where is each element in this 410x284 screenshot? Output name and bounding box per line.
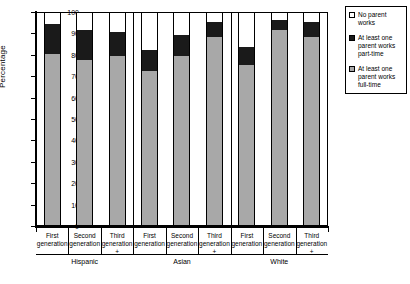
legend-swatch-full-time — [349, 66, 355, 72]
x-axis-category-label: Firstgeneration — [231, 232, 263, 248]
stacked-bar[interactable] — [141, 12, 158, 226]
x-axis-group-label: White — [231, 258, 328, 265]
x-label-divider — [198, 232, 199, 254]
chart-legend: No parent works At least one parent work… — [345, 6, 407, 94]
bar-segment-full-time — [110, 56, 125, 225]
bar-segment-part-time — [304, 22, 319, 37]
bar-segment-part-time — [142, 50, 157, 71]
y-tick-mark — [31, 12, 35, 13]
bar-slot — [263, 12, 295, 226]
bar-segment-part-time — [174, 35, 189, 56]
stacked-bar[interactable] — [44, 12, 61, 226]
x-label-divider — [68, 232, 69, 254]
x-label-divider — [133, 232, 134, 254]
x-label-divider — [231, 232, 232, 254]
legend-swatch-no-parent-works — [349, 12, 355, 18]
bar-segment-full-time — [304, 37, 319, 225]
y-tick-mark — [31, 183, 35, 184]
chart-container: Percentage 0102030405060708090100 Firstg… — [0, 0, 410, 284]
bar-segment-part-time — [77, 30, 92, 60]
x-label-divider — [296, 232, 297, 254]
y-tick-mark — [31, 55, 35, 56]
legend-item-no-parent-works: No parent works — [349, 11, 403, 27]
group-separator — [133, 12, 134, 226]
bar-slot — [296, 12, 328, 226]
stacked-bar[interactable] — [76, 12, 93, 226]
bar-segment-part-time — [272, 20, 287, 31]
bar-slot — [231, 12, 263, 226]
x-axis-category-label: Thirdgeneration+ — [101, 232, 133, 255]
bar-segment-full-time — [77, 60, 92, 225]
stacked-bar[interactable] — [173, 12, 190, 226]
bar-segment-part-time — [45, 24, 60, 54]
bar-slot — [36, 12, 68, 226]
bar-segment-full-time — [142, 71, 157, 225]
x-axis-group-label: Hispanic — [36, 258, 133, 265]
x-axis-category-label: Thirdgeneration+ — [198, 232, 230, 255]
bar-segment-part-time — [110, 32, 125, 56]
bar-segment-full-time — [174, 56, 189, 225]
bar-slot — [68, 12, 100, 226]
group-rule — [36, 254, 133, 255]
legend-swatch-part-time — [349, 35, 355, 41]
bar-slot — [133, 12, 165, 226]
x-label-divider — [166, 232, 167, 254]
stacked-bar[interactable] — [238, 12, 255, 226]
bar-series-group — [36, 12, 328, 226]
x-tick-mark — [328, 228, 329, 232]
bar-segment-full-time — [45, 54, 60, 225]
bar-segment-full-time — [207, 37, 222, 225]
x-axis-category-label: Secondgeneration — [68, 232, 100, 248]
bar-slot — [101, 12, 133, 226]
group-separator — [231, 12, 232, 226]
legend-label-full-time: At least one parent works full-time — [358, 65, 403, 89]
x-axis-group-label: Asian — [133, 258, 230, 265]
x-axis-category-label: Secondgeneration — [166, 232, 198, 248]
bar-segment-full-time — [272, 30, 287, 225]
y-tick-mark — [31, 33, 35, 34]
y-tick-mark — [31, 76, 35, 77]
legend-label-part-time: At least one parent works part-time — [358, 34, 403, 58]
stacked-bar[interactable] — [109, 12, 126, 226]
bar-slot — [198, 12, 230, 226]
bar-segment-part-time — [239, 47, 254, 64]
legend-label-no-parent-works: No parent works — [358, 11, 403, 27]
stacked-bar[interactable] — [206, 12, 223, 226]
group-rule — [231, 254, 328, 255]
y-tick-mark — [31, 119, 35, 120]
legend-item-part-time: At least one parent works part-time — [349, 34, 403, 58]
x-axis-category-label: Secondgeneration — [263, 232, 295, 248]
x-axis-category-label: Firstgeneration — [36, 232, 68, 248]
x-axis-category-label: Thirdgeneration+ — [296, 232, 328, 255]
x-axis-category-label: Firstgeneration — [133, 232, 165, 248]
y-tick-mark — [31, 226, 35, 227]
x-label-divider — [263, 232, 264, 254]
bar-segment-part-time — [207, 22, 222, 37]
bar-slot — [166, 12, 198, 226]
x-label-divider — [101, 232, 102, 254]
y-axis-title: Percentage — [0, 45, 7, 88]
x-axis-labels: FirstgenerationSecondgenerationThirdgene… — [36, 228, 328, 284]
bar-segment-full-time — [239, 65, 254, 226]
y-tick-mark — [31, 162, 35, 163]
y-tick-mark — [31, 140, 35, 141]
y-tick-mark — [31, 98, 35, 99]
group-rule — [133, 254, 230, 255]
legend-item-full-time: At least one parent works full-time — [349, 65, 403, 89]
stacked-bar[interactable] — [303, 12, 320, 226]
stacked-bar[interactable] — [271, 12, 288, 226]
y-tick-mark — [31, 205, 35, 206]
